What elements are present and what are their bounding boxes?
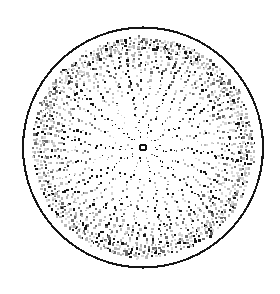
dot-mark [147, 253, 149, 255]
dot-mark [199, 78, 201, 80]
dot-mark [161, 42, 164, 45]
dot-mark [187, 147, 189, 149]
dot-mark [199, 97, 201, 99]
dot-mark [175, 58, 178, 61]
dot-mark [175, 160, 177, 162]
dot-mark [96, 187, 98, 189]
dot-mark [232, 109, 234, 111]
dot-mark [35, 168, 38, 171]
dot-mark [137, 208, 139, 210]
dot-mark [133, 215, 135, 217]
dot-mark [229, 164, 231, 166]
dot-mark [48, 175, 51, 178]
dot-mark [75, 161, 77, 163]
dot-mark [131, 54, 133, 56]
dot-mark [115, 73, 117, 75]
dot-mark [143, 234, 146, 237]
dot-mark [199, 132, 201, 134]
dot-mark [241, 173, 244, 176]
dot-mark [90, 52, 92, 54]
dot-mark [251, 137, 253, 139]
dot-mark [46, 156, 48, 158]
dot-mark [123, 133, 125, 135]
dot-mark [179, 241, 181, 243]
dot-mark [222, 157, 224, 159]
dot-mark [76, 182, 78, 184]
figure-root: Radial dot distribution diagram Circular… [0, 0, 280, 294]
dot-mark [111, 155, 113, 157]
dot-mark [224, 186, 226, 188]
dot-mark [68, 81, 70, 83]
dot-mark [81, 62, 83, 64]
dot-mark [45, 96, 47, 98]
dot-mark [185, 227, 187, 229]
dot-mark [47, 140, 50, 143]
dot-mark [233, 143, 236, 146]
dot-mark [105, 240, 107, 242]
dot-mark [151, 244, 154, 247]
dot-mark [62, 191, 64, 193]
dot-mark [113, 238, 115, 240]
dot-mark [72, 193, 74, 195]
dot-mark [147, 105, 149, 107]
dot-mark [216, 213, 218, 215]
dot-mark [113, 49, 116, 52]
dot-mark [66, 102, 68, 104]
dot-mark [171, 58, 173, 60]
dot-mark [210, 83, 213, 86]
dot-mark [77, 197, 79, 199]
dot-mark [81, 160, 83, 162]
dot-mark [110, 218, 112, 220]
dot-mark [90, 54, 92, 56]
dot-mark [117, 248, 120, 251]
dot-mark [116, 40, 119, 43]
dot-mark [35, 121, 37, 123]
dot-mark [121, 43, 124, 46]
dot-mark [80, 210, 82, 212]
dot-mark [170, 71, 172, 73]
dot-mark [122, 71, 124, 73]
dot-mark [57, 148, 60, 151]
dot-mark [138, 37, 140, 39]
dot-mark [113, 63, 115, 65]
dot-mark [150, 130, 152, 132]
dot-mark [95, 241, 98, 244]
dot-mark [130, 40, 132, 42]
dot-mark [90, 222, 92, 224]
dot-mark [228, 179, 230, 181]
dot-mark [47, 132, 49, 134]
dot-mark [61, 207, 63, 209]
dot-mark [103, 220, 105, 222]
dot-mark [73, 98, 75, 100]
dot-mark [68, 181, 70, 183]
dot-mark [203, 133, 205, 135]
dot-mark [119, 149, 120, 150]
dot-mark [216, 70, 219, 73]
dot-mark [60, 212, 62, 214]
dot-mark [156, 200, 158, 202]
dot-mark [63, 131, 65, 133]
dot-mark [213, 179, 215, 181]
dot-mark [107, 248, 109, 250]
dot-mark [75, 146, 77, 148]
dot-mark [127, 57, 130, 60]
dot-mark [170, 53, 173, 56]
dot-mark [225, 195, 227, 197]
dot-mark [113, 213, 115, 215]
dot-mark [189, 109, 191, 111]
dot-mark [107, 42, 109, 44]
dot-mark [184, 81, 187, 84]
dot-mark [143, 98, 145, 100]
dot-mark [59, 200, 61, 202]
dot-mark [59, 92, 61, 94]
dot-mark [159, 40, 161, 42]
dot-mark [124, 173, 126, 175]
dot-mark [46, 104, 48, 106]
dot-mark [96, 62, 99, 65]
dot-mark [191, 224, 193, 226]
dot-mark [179, 107, 181, 109]
dot-mark [82, 232, 84, 234]
dot-mark [148, 249, 151, 252]
dot-mark [88, 61, 91, 64]
dot-mark [148, 222, 150, 224]
